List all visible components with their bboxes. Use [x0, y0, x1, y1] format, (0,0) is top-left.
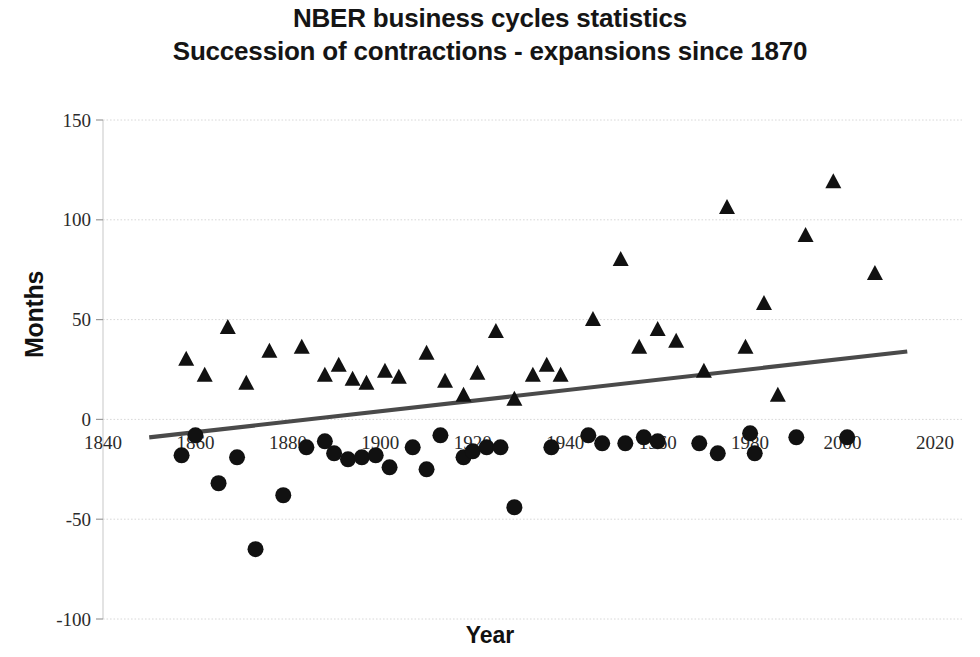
data-point-expansion [317, 367, 333, 382]
data-point-expansion [178, 351, 194, 366]
data-point-expansion [456, 387, 472, 402]
data-point-contraction [354, 449, 370, 465]
data-point-expansion [613, 251, 629, 266]
data-point-expansion [261, 343, 277, 358]
x-tick-group: 1840186018801900192019401960198020002020 [84, 432, 954, 453]
data-point-expansion [650, 321, 666, 336]
y-tick-label: -50 [66, 509, 91, 530]
x-tick-label: 1840 [84, 432, 122, 453]
data-point-contraction [465, 443, 481, 459]
data-point-contraction [419, 461, 435, 477]
data-point-expansion [696, 363, 712, 378]
data-point-expansion [488, 323, 504, 338]
data-point-contraction [298, 439, 314, 455]
data-point-expansion [585, 311, 601, 326]
data-point-contraction [742, 425, 758, 441]
data-point-contraction [617, 435, 633, 451]
data-point-contraction [594, 435, 610, 451]
data-point-expansion [419, 345, 435, 360]
data-point-contraction [839, 429, 855, 445]
y-tick-label: 150 [63, 110, 92, 131]
data-point-expansion [631, 339, 647, 354]
data-point-expansion [437, 373, 453, 388]
data-point-contraction [368, 447, 384, 463]
trendline-segment [149, 352, 907, 438]
data-point-contraction [248, 541, 264, 557]
y-tick-group: -100-50050100150 [56, 110, 103, 630]
y-tick-label: -100 [56, 609, 91, 630]
data-point-expansion [553, 367, 569, 382]
data-point-expansion [331, 357, 347, 372]
data-point-contraction [506, 499, 522, 515]
scatter-plot-canvas: -100-50050100150 18401860188019001920194… [0, 0, 980, 657]
data-point-expansion [539, 357, 555, 372]
data-point-expansion [867, 265, 883, 280]
data-point-contraction [580, 427, 596, 443]
data-point-expansion [294, 339, 310, 354]
data-point-contraction [229, 449, 245, 465]
data-point-expansion [469, 365, 485, 380]
series-expansions [178, 173, 883, 406]
data-point-expansion [668, 333, 684, 348]
data-point-expansion [345, 371, 361, 386]
data-point-expansion [825, 173, 841, 188]
data-point-contraction [691, 435, 707, 451]
chart-figure: NBER business cycles statistics Successi… [0, 0, 980, 657]
data-point-contraction [747, 445, 763, 461]
data-point-expansion [197, 367, 213, 382]
data-point-contraction [326, 445, 342, 461]
x-tick-label: 2020 [916, 432, 954, 453]
data-point-expansion [737, 339, 753, 354]
data-point-contraction [710, 445, 726, 461]
data-point-expansion [358, 375, 374, 390]
data-point-contraction [788, 429, 804, 445]
data-point-contraction [543, 439, 559, 455]
data-point-contraction [650, 433, 666, 449]
data-point-expansion [719, 199, 735, 214]
y-tick-label: 50 [72, 309, 91, 330]
data-point-contraction [493, 439, 509, 455]
data-point-expansion [238, 375, 254, 390]
data-point-contraction [479, 439, 495, 455]
data-point-expansion [525, 367, 541, 382]
data-point-contraction [187, 427, 203, 443]
data-point-contraction [405, 439, 421, 455]
y-tick-label: 0 [82, 409, 92, 430]
data-point-expansion [377, 363, 393, 378]
trendline [149, 352, 907, 438]
data-point-contraction [432, 427, 448, 443]
data-point-expansion [798, 227, 814, 242]
data-point-expansion [756, 295, 772, 310]
y-tick-label: 100 [63, 209, 92, 230]
data-point-contraction [382, 459, 398, 475]
data-point-contraction [636, 429, 652, 445]
data-point-expansion [770, 387, 786, 402]
data-point-contraction [211, 475, 227, 491]
data-point-expansion [391, 369, 407, 384]
data-point-contraction [275, 487, 291, 503]
data-point-contraction [340, 451, 356, 467]
data-point-contraction [174, 447, 190, 463]
data-point-expansion [220, 319, 236, 334]
